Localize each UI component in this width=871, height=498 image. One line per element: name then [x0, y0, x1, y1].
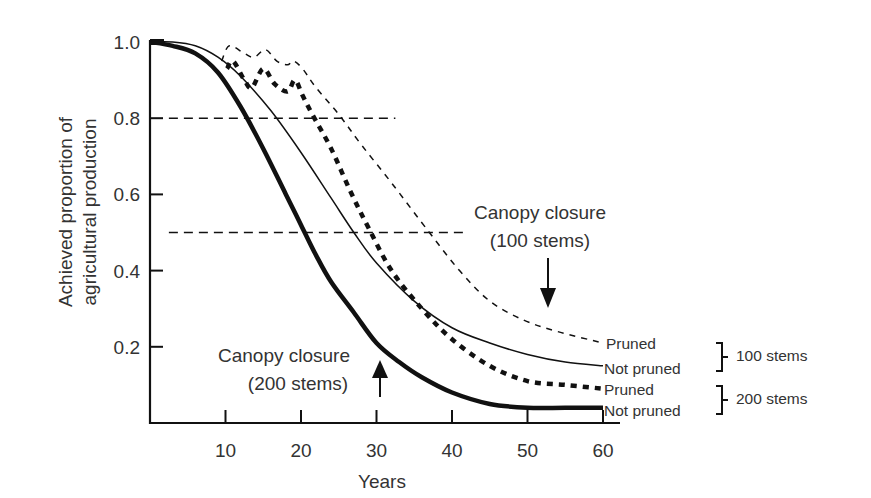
x-tick-label: 50: [517, 440, 538, 461]
annotation-canopy-200: Canopy closure (200 stems): [218, 345, 388, 397]
y-axis-title: Achieved proportion of agricultural prod…: [55, 116, 100, 307]
bracket-200-stems: [716, 386, 728, 414]
x-tick-label: 10: [215, 440, 236, 461]
chart: 0.20.40.60.81.0 102030405060 Years Achie…: [0, 0, 871, 498]
bracket-100-stems: [716, 343, 728, 371]
x-axis-title: Years: [358, 471, 406, 492]
annotation-200-line-1: Canopy closure: [218, 345, 350, 366]
y-tick-label: 0.6: [114, 184, 140, 205]
x-tick-label: 30: [366, 440, 387, 461]
x-ticks: 102030405060: [215, 410, 614, 461]
legend: Pruned Not pruned Pruned Not pruned 100 …: [604, 335, 808, 419]
annotation-200-line-2: (200 stems): [248, 373, 348, 394]
legend-200-not-pruned: Not pruned: [604, 402, 681, 419]
legend-100-not-pruned: Not pruned: [604, 360, 681, 377]
legend-bracket-100-label: 100 stems: [736, 347, 808, 364]
x-tick-label: 20: [290, 440, 311, 461]
y-ticks: 0.20.40.60.81.0: [114, 32, 163, 358]
y-tick-label: 0.4: [114, 261, 141, 282]
arrow-up-icon: [372, 360, 388, 397]
legend-bracket-200-label: 200 stems: [736, 390, 808, 407]
x-tick-label: 40: [441, 440, 462, 461]
x-tick-label: 60: [592, 440, 613, 461]
arrow-down-icon: [540, 258, 556, 308]
annotation-100-line-1: Canopy closure: [474, 202, 606, 223]
annotation-canopy-100: Canopy closure (100 stems): [474, 202, 606, 308]
y-tick-label: 0.2: [114, 337, 140, 358]
reference-lines: [169, 118, 467, 232]
series-line-200-stems-pruned: [227, 61, 603, 389]
y-tick-label: 0.8: [114, 108, 140, 129]
y-axis-title-line-2: agricultural production: [79, 119, 100, 306]
y-tick-label: 1.0: [114, 32, 140, 53]
y-axis-title-line-1: Achieved proportion of: [55, 116, 76, 307]
annotation-100-line-2: (100 stems): [490, 230, 590, 251]
legend-200-pruned: Pruned: [604, 381, 654, 398]
legend-100-pruned: Pruned: [606, 335, 656, 352]
